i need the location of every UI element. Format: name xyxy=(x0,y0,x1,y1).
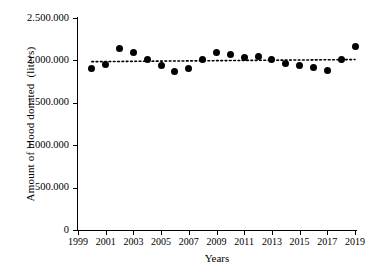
x-axis-tick xyxy=(106,231,107,235)
y-axis-tick-label: 2.000.000 xyxy=(27,55,69,66)
data-point xyxy=(144,56,151,63)
x-axis-tick xyxy=(161,231,162,235)
x-axis-tick-label: 2019 xyxy=(337,237,366,247)
data-point xyxy=(213,49,220,56)
x-axis-tick xyxy=(78,231,79,235)
plot-area xyxy=(78,18,355,230)
x-axis-tick xyxy=(300,231,301,235)
data-point xyxy=(185,65,192,72)
x-axis-tick xyxy=(244,231,245,235)
data-point xyxy=(116,45,123,52)
data-point xyxy=(268,56,275,63)
data-point xyxy=(171,68,178,75)
y-axis-tick-label: 2.500.000 xyxy=(27,13,69,24)
data-point xyxy=(296,62,303,69)
x-axis-title: Years xyxy=(78,252,356,264)
data-point xyxy=(241,54,248,61)
data-point xyxy=(352,43,359,50)
chart-figure: Amount of blood donated (liters) 0500.00… xyxy=(0,0,366,274)
data-point xyxy=(310,64,317,71)
data-point xyxy=(130,49,137,56)
data-point xyxy=(88,65,95,72)
x-axis-tick xyxy=(217,231,218,235)
x-axis-tick xyxy=(355,231,356,235)
data-point xyxy=(102,61,109,68)
data-point xyxy=(158,62,165,69)
y-axis-tick-label: 1.000.000 xyxy=(27,140,69,151)
data-point xyxy=(255,53,262,60)
data-point xyxy=(338,56,345,63)
y-axis-tick-label: 0 xyxy=(64,225,69,236)
x-axis-tick xyxy=(327,231,328,235)
y-axis-tick-label: 1.500.000 xyxy=(27,97,69,108)
x-axis-tick xyxy=(272,231,273,235)
data-point xyxy=(199,56,206,63)
data-point xyxy=(324,67,331,74)
x-axis-tick xyxy=(133,231,134,235)
y-axis-tick-label: 500.000 xyxy=(35,182,69,193)
data-point xyxy=(282,60,289,67)
data-point xyxy=(227,51,234,58)
x-axis-tick xyxy=(189,231,190,235)
y-axis-title: Amount of blood donated (liters) xyxy=(24,9,36,239)
